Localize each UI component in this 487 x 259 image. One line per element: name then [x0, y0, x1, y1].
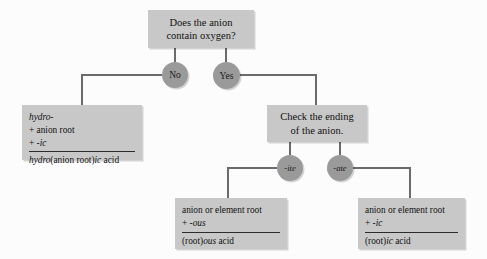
ic-line-2-plus: + — [365, 218, 373, 228]
wire-no-to-hydro — [82, 75, 162, 105]
hydro-line-3-plus: + — [29, 138, 37, 148]
flowchart-canvas: Does the anion contain oxygen? No Yes hy… — [0, 0, 487, 259]
rule-node-ous[interactable]: anion or element root + -ous (root)ous a… — [175, 198, 287, 249]
check-line-2: of the anion. — [291, 124, 344, 137]
question-node-anion-oxygen[interactable]: Does the anion contain oxygen? — [148, 10, 254, 48]
branch-label-yes: Yes — [220, 71, 234, 81]
hydro-result-acid: acid — [101, 155, 119, 165]
wire-ate-to-ic — [353, 168, 410, 198]
check-node-anion-ending[interactable]: Check the ending of the anion. — [267, 105, 367, 142]
ous-result-acid: acid — [216, 236, 234, 246]
branch-label-ite: -ite — [284, 163, 295, 173]
branch-label-ate: -ate — [333, 163, 346, 173]
hydro-line-3-suffix: -ic — [37, 138, 47, 148]
ic-result-root: (root) — [365, 236, 386, 246]
hydro-result-prefix: hydro — [29, 155, 50, 165]
branch-label-no: No — [169, 70, 181, 80]
hydro-line-1: hydro- — [29, 111, 135, 124]
ous-result-suffix: ous — [203, 236, 216, 246]
ous-line-2-plus: + — [182, 218, 190, 228]
branch-oval-ite[interactable]: -ite — [277, 155, 303, 181]
wire-ite-to-ous — [228, 168, 277, 198]
ous-result: (root)ous acid — [182, 232, 280, 248]
ous-line-2: + -ous — [182, 217, 280, 230]
question-line-1: Does the anion — [170, 16, 233, 29]
ous-line-1: anion or element root — [182, 204, 280, 217]
branch-oval-ate[interactable]: -ate — [327, 155, 353, 181]
ic-result-acid: acid — [393, 236, 411, 246]
ic-result: (root)ic acid — [365, 232, 458, 248]
hydro-result-root: (anion root) — [50, 155, 94, 165]
ic-result-suffix: ic — [386, 236, 393, 246]
hydro-line-3: + -ic — [29, 137, 135, 150]
check-line-1: Check the ending — [280, 110, 353, 123]
wire-yes-to-check — [240, 75, 316, 105]
rule-node-hydro[interactable]: hydro- + anion root + -ic hydro(anion ro… — [22, 105, 142, 160]
hydro-line-2: + anion root — [29, 124, 135, 137]
ous-line-2-suffix: -ous — [190, 218, 206, 228]
branch-oval-no[interactable]: No — [162, 62, 188, 88]
ous-result-root: (root) — [182, 236, 203, 246]
rule-node-ic[interactable]: anion or element root + -ic (root)ic aci… — [358, 198, 465, 249]
branch-oval-yes[interactable]: Yes — [213, 62, 240, 89]
ic-line-2: + -ic — [365, 217, 458, 230]
ic-line-2-suffix: -ic — [373, 218, 383, 228]
hydro-result: hydro(anion root)ic acid — [29, 151, 135, 167]
ic-line-1: anion or element root — [365, 204, 458, 217]
question-line-2: contain oxygen? — [166, 29, 235, 42]
